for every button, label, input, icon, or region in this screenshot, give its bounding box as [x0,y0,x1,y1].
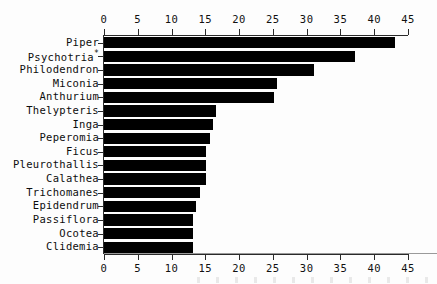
bar-ficus [104,146,206,157]
bar-piper [104,37,395,48]
bar-anthurium [104,92,274,103]
x-tick-label-bottom-30: 30 [300,262,314,274]
bar-philodendron [104,64,314,75]
x-tick-label-bottom-40: 40 [367,262,381,274]
bar-inga [104,119,213,130]
x-tick-label-bottom-20: 20 [232,262,246,274]
category-label-calathea: Calathea [0,172,99,184]
x-tick-top-15 [205,29,206,35]
x-tick-label-bottom-0: 0 [101,262,108,274]
chart-figure: PiperPsychotria*PhilodendronMiconiaAnthu… [0,0,437,284]
x-tick-top-20 [239,29,240,35]
x-tick-top-30 [307,29,308,35]
x-tick-bottom-45 [408,254,409,260]
bar-thelypteris [104,105,216,116]
category-label-philodendron: Philodendron [0,63,99,75]
x-tick-top-25 [273,29,274,35]
x-tick-label-top-35: 35 [334,13,348,25]
x-tick-bottom-25 [273,254,274,260]
category-label-passiflora: Passiflora [0,213,99,225]
category-label-clidemia: Clidemia [0,240,99,252]
category-label-pleurothallis: Pleurothallis [0,158,99,170]
category-label-ocotea: Ocotea [0,227,99,239]
x-tick-bottom-40 [374,254,375,260]
x-tick-label-bottom-5: 5 [134,262,141,274]
category-label-thelypteris: Thelypteris [0,104,99,116]
top-axis-line [104,35,408,36]
x-tick-top-5 [138,29,139,35]
bar-trichomanes [104,187,200,198]
bar-peperomia [104,133,210,144]
x-tick-label-top-20: 20 [232,13,246,25]
x-tick-top-45 [408,29,409,35]
category-label-peperomia: Peperomia [0,131,99,143]
x-tick-bottom-15 [205,254,206,260]
x-tick-label-bottom-25: 25 [266,262,280,274]
x-tick-label-top-0: 0 [101,13,108,25]
x-tick-top-10 [172,29,173,35]
caption-smudge [190,277,430,283]
x-tick-top-40 [374,29,375,35]
bar-ocotea [104,228,193,239]
bar-psychotria [104,51,355,62]
x-tick-label-top-40: 40 [367,13,381,25]
x-tick-label-top-30: 30 [300,13,314,25]
category-label-inga: Inga [0,118,99,130]
x-tick-label-top-45: 45 [401,13,415,25]
x-tick-label-bottom-35: 35 [334,262,348,274]
bar-pleurothallis [104,160,206,171]
category-label-ficus: Ficus [0,145,99,157]
x-tick-label-bottom-45: 45 [401,262,415,274]
category-label-epidendrum: Epidendrum [0,199,99,211]
bottom-axis-line [104,254,408,255]
category-label-psychotria: Psychotria* [0,49,99,63]
x-tick-bottom-30 [307,254,308,260]
bar-clidemia [104,242,193,253]
x-tick-top-0 [104,29,105,35]
x-tick-bottom-20 [239,254,240,260]
bar-passiflora [104,214,193,225]
x-tick-label-top-15: 15 [199,13,213,25]
category-axis-labels: PiperPsychotria*PhilodendronMiconiaAnthu… [0,36,99,254]
x-tick-bottom-35 [340,254,341,260]
x-tick-label-top-10: 10 [165,13,179,25]
x-tick-label-bottom-15: 15 [199,262,213,274]
x-tick-bottom-10 [172,254,173,260]
bar-miconia [104,78,277,89]
x-tick-label-top-25: 25 [266,13,280,25]
category-label-piper: Piper [0,36,99,48]
bar-epidendrum [104,201,196,212]
bar-calathea [104,173,206,184]
category-label-anthurium: Anthurium [0,90,99,102]
x-tick-label-bottom-10: 10 [165,262,179,274]
plot-area: 051015202530354045 051015202530354045 [104,36,408,254]
x-tick-bottom-0 [104,254,105,260]
x-tick-top-35 [340,29,341,35]
x-tick-label-top-5: 5 [134,13,141,25]
x-tick-bottom-5 [138,254,139,260]
category-label-trichomanes: Trichomanes [0,186,99,198]
category-label-miconia: Miconia [0,77,99,89]
